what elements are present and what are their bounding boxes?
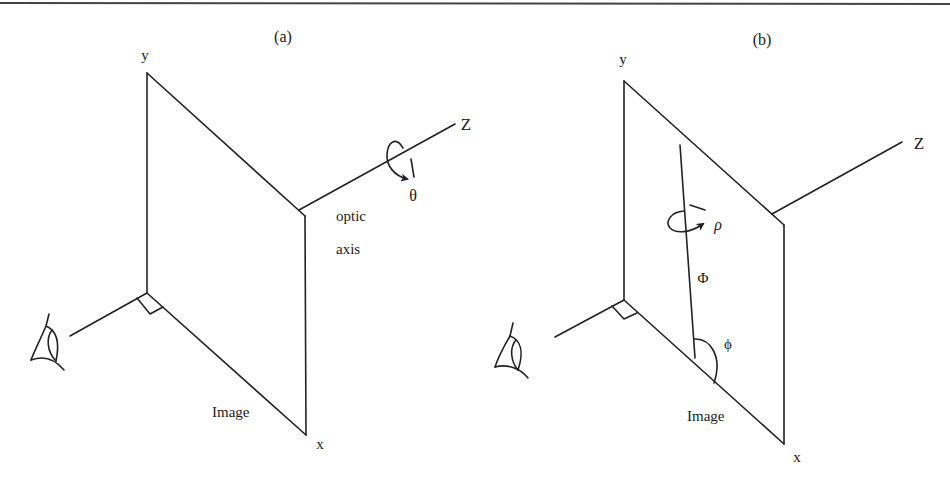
z-axis-label-a: Z [461,115,471,134]
panel-a: (a) y Z θ optic axis Ima [31,28,471,452]
eye-icon [31,314,64,370]
panel-b-caption: (b) [753,31,772,49]
z-axis-b [772,142,902,214]
top-rule [0,3,950,4]
z-axis-a [299,124,455,210]
eye-icon [495,323,528,378]
x-axis-label-b: x [793,449,801,465]
viewer-axis-a [70,293,147,336]
line-phi [680,145,695,358]
rotation-arrow-theta [387,141,414,179]
y-axis-label-a: y [141,47,149,63]
z-axis-label-b: Z [914,134,924,153]
right-angle-marker-a [137,298,163,314]
image-plane-a [147,73,306,435]
x-axis-label-a: x [316,436,324,452]
phi-line-label: Φ [698,270,709,286]
figure: (a) y Z θ optic axis Ima [0,0,950,477]
phi-angle-label: ϕ [724,336,732,352]
image-label-a: Image [212,404,250,420]
image-label-b: Image [687,408,725,424]
panel-a-caption: (a) [274,28,292,46]
optic-label: optic [336,208,366,224]
y-axis-label-b: y [619,51,627,67]
image-plane-b [624,81,784,444]
axis-label: axis [336,241,360,257]
angle-arc-phi [694,339,717,383]
panel-b: (b) y Z ρ [495,31,924,465]
rho-label: ρ [713,216,722,234]
viewer-axis-b [555,300,624,337]
theta-label: θ [409,187,417,204]
